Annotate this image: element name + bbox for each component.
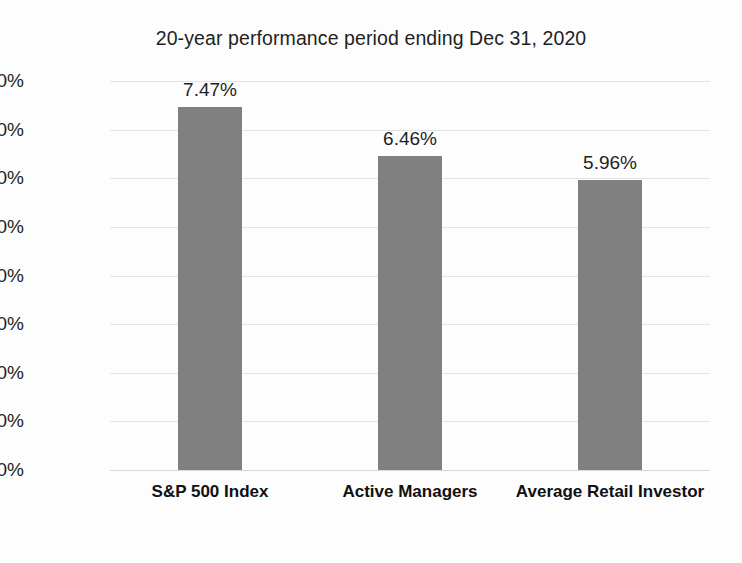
bar[interactable] <box>378 156 442 470</box>
y-axis-tick-label: 2.00% <box>0 362 24 384</box>
y-axis-tick-label: 0.00% <box>0 459 24 481</box>
bar-group[interactable]: 6.46% <box>378 81 442 470</box>
bar-value-label: 7.47% <box>183 79 237 101</box>
x-axis-tick-label: Active Managers <box>310 481 510 504</box>
bar-value-label: 5.96% <box>583 152 637 174</box>
y-axis-tick-label: 3.00% <box>0 313 24 335</box>
x-axis-tick-label: S&P 500 Index <box>110 481 310 504</box>
chart-title: 20-year performance period ending Dec 31… <box>0 27 742 50</box>
gridline <box>110 470 710 471</box>
y-axis-tick-label: 8.00% <box>0 70 24 92</box>
bar-group[interactable]: 7.47% <box>178 81 242 470</box>
y-axis-tick-label: 7.00% <box>0 119 24 141</box>
y-axis-tick-label: 6.00% <box>0 167 24 189</box>
bar-group[interactable]: 5.96% <box>578 81 642 470</box>
bar-chart-figure: 20-year performance period ending Dec 31… <box>0 0 742 563</box>
bar[interactable] <box>178 107 242 470</box>
y-axis-tick-label: 4.00% <box>0 265 24 287</box>
x-axis-tick-label: Average Retail Investor <box>510 481 710 504</box>
plot-area: 7.47%6.46%5.96% <box>110 81 710 470</box>
bar-value-label: 6.46% <box>383 128 437 150</box>
y-axis-tick-label: 1.00% <box>0 410 24 432</box>
y-axis-tick-label: 5.00% <box>0 216 24 238</box>
bar[interactable] <box>578 180 642 470</box>
